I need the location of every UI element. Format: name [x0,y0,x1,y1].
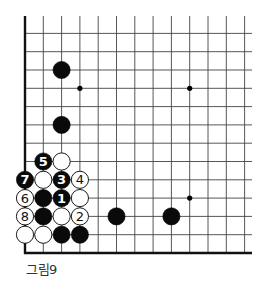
move-number-label: 3 [57,172,66,187]
white-stone [53,153,70,170]
white-stone: 6 [16,190,33,207]
white-stone: 4 [71,171,88,188]
white-stone [16,226,33,243]
black-stone [163,208,180,225]
black-stone [108,208,125,225]
white-stone [35,226,52,243]
black-stone [35,208,52,225]
white-stone [71,190,88,207]
black-stone [53,116,70,133]
white-stone: 8 [16,208,33,225]
figure-caption: 그림9 [26,259,57,278]
black-stone: 3 [53,171,70,188]
black-stone: 5 [35,153,52,170]
move-number-label: 1 [57,191,66,206]
move-number-label: 2 [76,209,84,224]
star-point-icon [77,86,82,91]
black-stone [35,190,52,207]
white-stone [53,208,70,225]
move-number-label: 4 [76,172,84,187]
white-stone: 2 [71,208,88,225]
black-stone [53,226,70,243]
move-number-label: 6 [21,191,29,206]
black-stone [71,226,88,243]
black-stone [53,61,70,78]
star-point-icon [187,86,192,91]
move-number-label: 7 [20,172,29,187]
move-number-label: 8 [21,209,29,224]
white-stone [35,171,52,188]
black-stone: 7 [16,171,33,188]
black-stone: 1 [53,190,70,207]
move-number-label: 5 [39,154,48,169]
star-point-icon [187,196,192,201]
go-board-diagram: 57346182 [0,0,265,256]
